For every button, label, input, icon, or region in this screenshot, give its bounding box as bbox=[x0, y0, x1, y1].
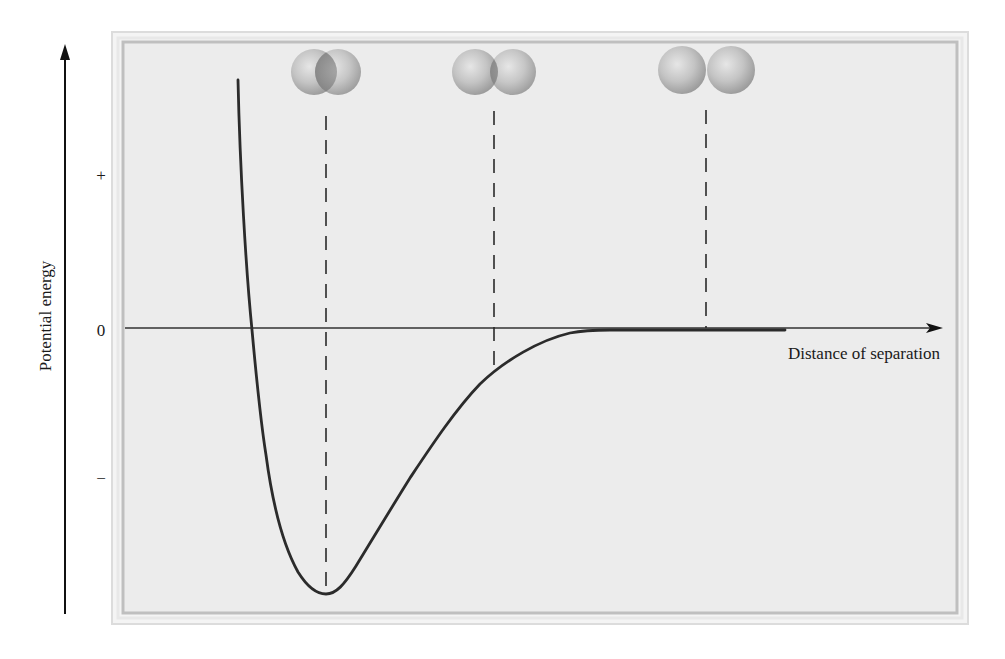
y-tick-minus: − bbox=[96, 469, 106, 488]
y-tick-plus: + bbox=[96, 166, 106, 185]
atom-sphere-icon bbox=[707, 46, 755, 94]
atom-pair-overlapping-strong bbox=[291, 49, 361, 95]
potential-energy-diagram: Potential energy + 0 − Distance of separ… bbox=[0, 0, 1005, 659]
atom-sphere-icon bbox=[658, 46, 706, 94]
y-axis-arrow bbox=[60, 44, 70, 614]
y-tick-zero: 0 bbox=[97, 321, 106, 340]
y-axis-label: Potential energy bbox=[36, 260, 55, 371]
x-axis-label: Distance of separation bbox=[788, 344, 940, 363]
